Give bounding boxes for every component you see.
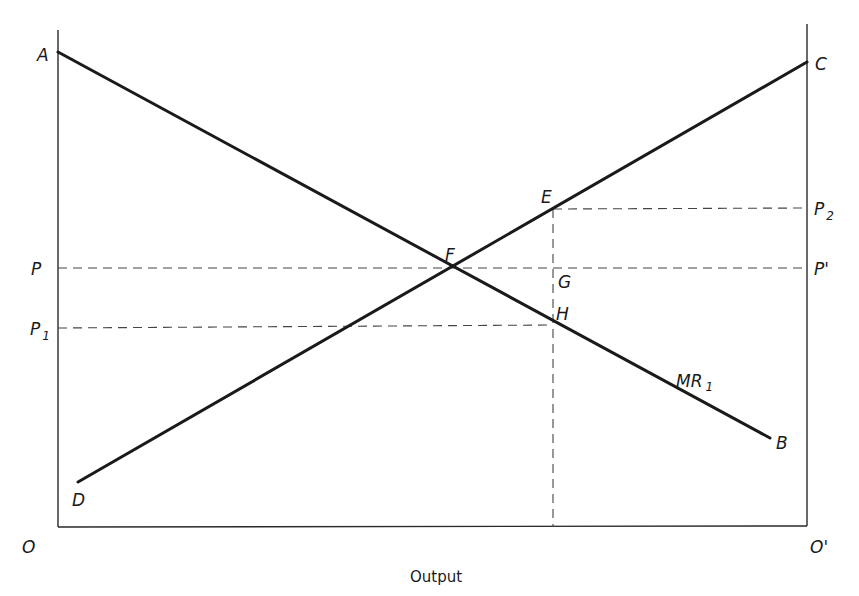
- label-g: G: [558, 272, 571, 292]
- label-a: A: [36, 45, 49, 65]
- label-p: P: [31, 259, 42, 279]
- output-axis: [58, 526, 807, 527]
- label-p1: P1: [30, 319, 50, 343]
- label-mr1: MR1: [676, 371, 713, 394]
- label-origin-right: O': [810, 537, 828, 557]
- label-p2: P2: [814, 199, 834, 223]
- curve-dc: [78, 62, 807, 482]
- mr1-curve-ab: [58, 52, 770, 438]
- label-d: D: [72, 490, 85, 510]
- label-f: F: [445, 245, 455, 265]
- label-origin-left: O: [22, 537, 35, 557]
- price-line-p1: [58, 325, 553, 328]
- label-e: E: [541, 187, 552, 207]
- label-b: B: [776, 433, 788, 453]
- diagram-canvas: A C E F G H B D P P1 P2 P' MR1 O O' Outp…: [0, 0, 859, 596]
- label-h: H: [556, 304, 569, 324]
- label-c: C: [815, 54, 827, 74]
- label-p-prime: P': [814, 259, 829, 279]
- price-line-p2: [553, 208, 807, 209]
- x-axis-title: Output: [410, 568, 462, 586]
